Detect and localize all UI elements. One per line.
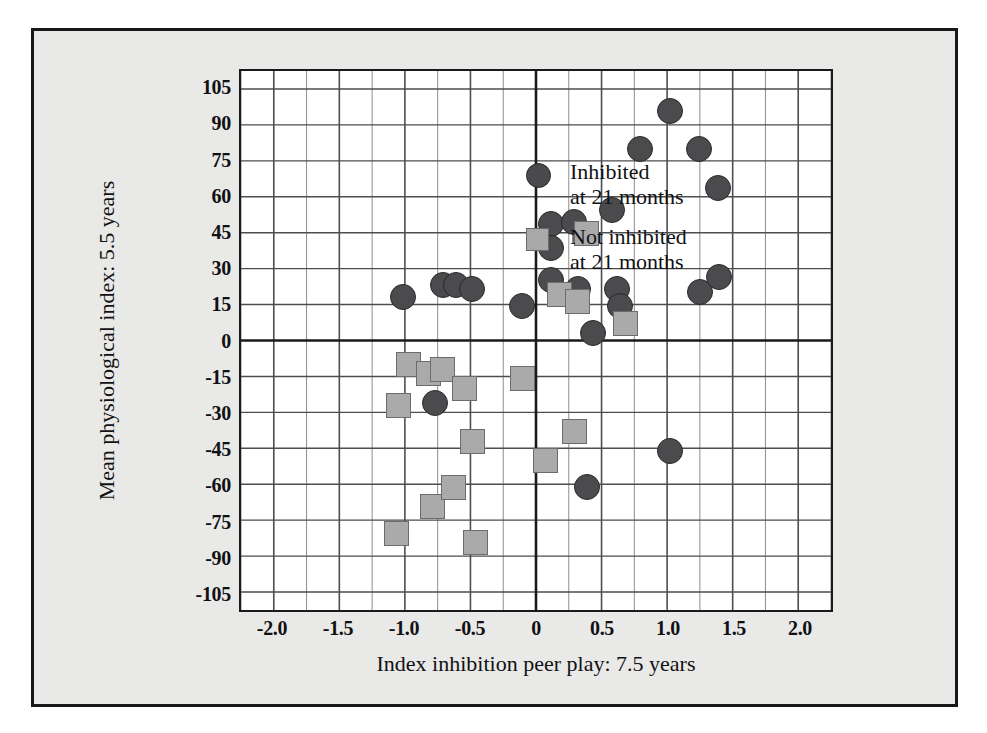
y-tick-label: -75 (169, 512, 231, 532)
y-axis-tick-labels: 1059075604530150-15-30-45-60-75-90-105 (165, 69, 231, 612)
y-tick-label: -45 (169, 439, 231, 459)
legend-label-inhibited-line2: at 21 months (570, 184, 684, 209)
chart-legend: Inhibited at 21 months Not inhibited at … (526, 159, 756, 288)
plot-area: Inhibited at 21 months Not inhibited at … (239, 69, 833, 612)
y-tick-label: 45 (169, 222, 231, 242)
y-tick-label: -60 (169, 475, 231, 495)
y-tick-label: 105 (169, 77, 231, 97)
y-tick-label: 0 (169, 331, 231, 351)
y-axis-title: Mean physiological index: 5.5 years (94, 69, 134, 612)
x-tick-label: 1.0 (633, 618, 703, 638)
x-tick-label: 2.0 (765, 618, 835, 638)
y-tick-label: 15 (169, 294, 231, 314)
x-axis-tick-labels: -2.0-1.5-1.0-0.500.51.01.52.0 (239, 618, 833, 652)
legend-item-not-inhibited: Not inhibited at 21 months (526, 224, 756, 275)
y-tick-label: -105 (169, 584, 231, 604)
x-tick-label: -2.0 (237, 618, 307, 638)
legend-marker-not-inhibited-cell (526, 224, 570, 251)
legend-item-inhibited: Inhibited at 21 months (526, 159, 756, 210)
y-tick-label: -30 (169, 403, 231, 423)
x-tick-label: 0 (501, 618, 571, 638)
legend-label-not-inhibited-line2: at 21 months (570, 249, 687, 274)
x-axis-title: Index inhibition peer play: 7.5 years (239, 652, 833, 676)
y-tick-label: 60 (169, 186, 231, 206)
grid-lines (241, 71, 831, 610)
legend-label-inhibited-line1: Inhibited (570, 159, 684, 184)
x-tick-label: -1.0 (369, 618, 439, 638)
x-tick-label: -1.5 (303, 618, 373, 638)
x-tick-label: 1.5 (699, 618, 769, 638)
y-tick-label: 90 (169, 113, 231, 133)
x-tick-label: 0.5 (567, 618, 637, 638)
figure-scatter-plot: Mean physiological index: 5.5 years 1059… (0, 0, 987, 733)
y-tick-label: -15 (169, 367, 231, 387)
y-tick-label: 75 (169, 150, 231, 170)
circle-marker-icon (526, 163, 551, 188)
square-marker-icon (526, 228, 549, 251)
legend-label-not-inhibited-line1: Not inhibited (570, 224, 687, 249)
legend-label-inhibited: Inhibited at 21 months (570, 159, 684, 210)
x-tick-label: -0.5 (435, 618, 505, 638)
legend-marker-inhibited-cell (526, 159, 570, 188)
legend-label-not-inhibited: Not inhibited at 21 months (570, 224, 687, 275)
plot-wrapper: Mean physiological index: 5.5 years 1059… (0, 0, 987, 733)
y-tick-label: -90 (169, 548, 231, 568)
y-tick-label: 30 (169, 258, 231, 278)
